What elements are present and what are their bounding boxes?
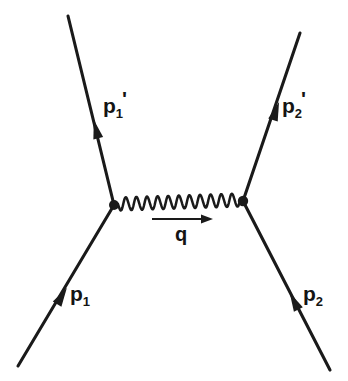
momentum-label-p1-sub: 1 bbox=[83, 294, 90, 309]
momentum-label-p2-prime-base: p bbox=[282, 94, 295, 117]
momentum-label-p2-base: p bbox=[303, 282, 316, 305]
feynman-diagram-canvas: p1' p2' p1 p2 q bbox=[0, 0, 348, 381]
momentum-transfer-arrowhead bbox=[201, 215, 213, 224]
momentum-label-p2: p2 bbox=[303, 283, 323, 304]
momentum-label-p2-prime-mark: ' bbox=[301, 87, 306, 110]
momentum-label-p1-base: p bbox=[70, 282, 83, 305]
arrowhead-p2-in bbox=[290, 293, 303, 312]
feynman-diagram-svg bbox=[0, 0, 348, 381]
momentum-transfer-label: q bbox=[175, 224, 187, 244]
fermion-leg-p1-in bbox=[18, 205, 114, 366]
interaction-vertex-left bbox=[109, 200, 119, 210]
momentum-label-p1: p1 bbox=[70, 283, 90, 304]
momentum-label-p2-sub: 2 bbox=[316, 294, 323, 309]
momentum-label-p1-prime-mark: ' bbox=[122, 87, 127, 110]
momentum-label-p1-prime-base: p bbox=[103, 94, 116, 117]
photon-propagator bbox=[118, 194, 240, 211]
interaction-vertex-right bbox=[238, 196, 248, 206]
momentum-label-p2-prime: p2' bbox=[282, 95, 307, 116]
momentum-label-p1-prime: p1' bbox=[103, 95, 128, 116]
arrowhead-p2-out bbox=[268, 102, 279, 122]
arrowhead-p1-out bbox=[93, 120, 103, 140]
